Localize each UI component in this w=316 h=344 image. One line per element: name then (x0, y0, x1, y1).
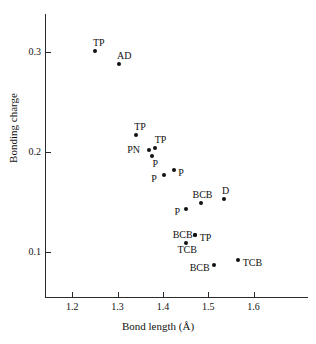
data-point (153, 146, 157, 150)
x-axis-title: Bond length (Å) (0, 320, 316, 332)
data-point-label: AD (117, 51, 131, 61)
y-tick-label: 0.1 (13, 246, 41, 257)
data-point (172, 168, 176, 172)
plot-area: 1.21.31.41.51.6 0.10.20.3 TPADTPPNTPPPPB… (45, 14, 308, 297)
data-point (222, 197, 226, 201)
data-point-label: P (153, 159, 159, 169)
data-point-label: TP (200, 233, 212, 243)
data-point-label: D (222, 186, 229, 196)
data-point-label: P (178, 168, 184, 178)
x-tick-label: 1.4 (148, 301, 178, 312)
y-axis-line (45, 14, 46, 298)
data-point (236, 258, 240, 262)
data-point-label: BCB (190, 263, 210, 273)
data-point (93, 49, 97, 53)
x-tick-label: 1.5 (193, 301, 223, 312)
data-point-label: TCB (177, 245, 196, 255)
y-axis-title: Bonding charge (7, 63, 19, 193)
data-point-label: BCB (173, 230, 193, 240)
x-tick-mark (118, 292, 119, 297)
data-point-label: P (174, 207, 180, 217)
x-tick-mark (72, 292, 73, 297)
y-tick-mark (46, 52, 51, 53)
x-tick-label: 1.2 (57, 301, 87, 312)
data-point (193, 233, 197, 237)
data-point-label: TCB (243, 258, 262, 268)
data-point (199, 201, 203, 205)
y-tick-mark (46, 252, 51, 253)
x-tick-mark (254, 292, 255, 297)
data-point (147, 148, 151, 152)
data-point-label: PN (127, 145, 140, 155)
data-point (117, 62, 121, 66)
x-tick-label: 1.3 (103, 301, 133, 312)
y-tick-mark (46, 152, 51, 153)
data-point-label: TP (155, 135, 167, 145)
data-point (162, 173, 166, 177)
data-point-label: BCB (193, 190, 213, 200)
scatter-chart-figure: 1.21.31.41.51.6 0.10.20.3 TPADTPPNTPPPPB… (0, 0, 316, 344)
data-point-label: P (151, 174, 157, 184)
x-tick-mark (163, 292, 164, 297)
data-point-label: TP (134, 122, 146, 132)
data-point (212, 263, 216, 267)
y-tick-label: 0.3 (13, 46, 41, 57)
x-tick-mark (208, 292, 209, 297)
data-point-label: TP (93, 38, 105, 48)
data-point (184, 207, 188, 211)
x-tick-label: 1.6 (239, 301, 269, 312)
x-axis-line (45, 297, 308, 298)
data-point (134, 133, 138, 137)
